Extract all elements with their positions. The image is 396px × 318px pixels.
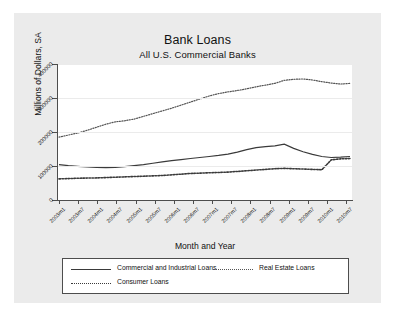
legend-key [71, 283, 111, 284]
x-tick [270, 200, 271, 204]
series-line [59, 79, 350, 137]
x-tick [59, 200, 60, 204]
x-tick [289, 200, 290, 204]
x-tick [97, 200, 98, 204]
y-tick-label-wrap: 400000 [12, 60, 52, 68]
chart-legend: Commercial and Industrial LoansReal Esta… [62, 258, 349, 294]
x-tick [193, 200, 194, 204]
plot-area [57, 64, 352, 200]
gridline [57, 132, 352, 133]
legend-key [71, 269, 111, 270]
y-tick-label-wrap: 100000 [12, 162, 52, 170]
x-tick [346, 200, 347, 204]
x-tick [327, 200, 328, 204]
chart-title: Bank Loans [14, 33, 381, 47]
y-tick-label-wrap: 300000 [12, 94, 52, 102]
x-tick [174, 200, 175, 204]
y-tick-label-wrap: 200000 [12, 128, 52, 136]
x-tick [308, 200, 309, 204]
series-line [59, 144, 350, 167]
y-tick-label: 300000 [37, 95, 54, 112]
legend-label: Real Estate Loans [259, 264, 315, 271]
y-tick-label: 100000 [37, 163, 54, 180]
gridline [57, 166, 352, 167]
legend-label: Consumer Loans [117, 278, 169, 285]
x-tick [212, 200, 213, 204]
y-tick-label: 200000 [37, 129, 54, 146]
x-tick [155, 200, 156, 204]
chart-subtitle: All U.S. Commercial Banks [14, 49, 381, 60]
x-tick [78, 200, 79, 204]
y-axis-line [57, 64, 58, 200]
x-axis-label: Month and Year [57, 241, 353, 251]
y-tick-label: 0 [48, 197, 54, 203]
legend-key [213, 269, 253, 270]
x-tick [231, 200, 232, 204]
x-tick [116, 200, 117, 204]
x-tick [136, 200, 137, 204]
x-tick [250, 200, 251, 204]
series-line [59, 159, 350, 179]
gridline [57, 64, 352, 65]
y-tick-label: 400000 [37, 61, 54, 78]
legend-label: Commercial and Industrial Loans [117, 264, 216, 271]
gridline [57, 98, 352, 99]
chart-card: Bank Loans All U.S. Commercial Banks Mil… [14, 13, 381, 303]
y-tick-label-wrap: 0 [12, 196, 52, 204]
